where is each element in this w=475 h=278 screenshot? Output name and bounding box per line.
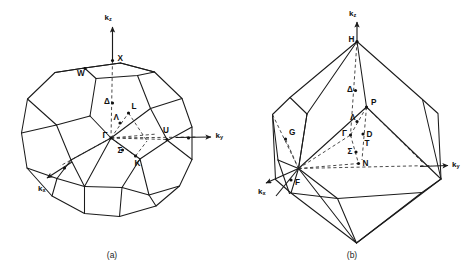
- bcc-point-label-F: F: [295, 178, 300, 187]
- bcc-point-dot-N: [357, 162, 360, 165]
- bcc-point-dot-P: [365, 105, 368, 108]
- bcc-point-dot-G: [284, 137, 287, 140]
- bcc-symmetry-points: HΔPΛΓDTΣNGF: [284, 35, 377, 187]
- bcc-outer-outline: [273, 42, 442, 244]
- bcc-point-dot-D: [361, 132, 364, 135]
- ky-axis-b: [420, 166, 448, 167]
- bcc-face-edges: [273, 42, 442, 244]
- bcc-axes: [266, 22, 448, 196]
- bcc-point-dot-F: [289, 178, 292, 181]
- kx-axis-b: [266, 169, 299, 184]
- bcc-point-label-N: N: [363, 159, 369, 168]
- ky-axis-label-b: ky: [452, 160, 460, 170]
- panel-a-caption: (a): [92, 250, 132, 260]
- bcc-point-dot-Γ: [349, 133, 352, 136]
- panel-b-caption: (b): [332, 250, 372, 260]
- bcc-point-label-Γ: Γ: [342, 129, 347, 138]
- figure-container: kz ky kx XWΔLΛΓUΣK: [0, 0, 475, 278]
- bcc-point-label-Σ: Σ: [348, 147, 353, 156]
- bcc-brillouin-zone-diagram: kz ky kx HΔPΛΓDTΣNGF: [0, 0, 475, 278]
- kx-axis-label-b: kx: [258, 187, 266, 197]
- kz-axis-label-b: kz: [349, 9, 356, 19]
- bcc-point-label-P: P: [371, 98, 377, 107]
- bcc-point-dot-Σ: [354, 150, 357, 153]
- bcc-point-label-Δ: Δ: [347, 85, 353, 94]
- bcc-point-dot-H: [355, 40, 358, 43]
- bcc-point-label-G: G: [289, 128, 295, 137]
- bcc-point-dot-Λ: [355, 120, 358, 123]
- bcc-point-dot-Δ: [354, 89, 357, 92]
- bcc-point-label-H: H: [349, 35, 355, 44]
- bcc-point-label-Λ: Λ: [350, 113, 356, 122]
- bcc-point-label-D: D: [367, 130, 373, 139]
- bcc-point-label-T: T: [365, 139, 370, 148]
